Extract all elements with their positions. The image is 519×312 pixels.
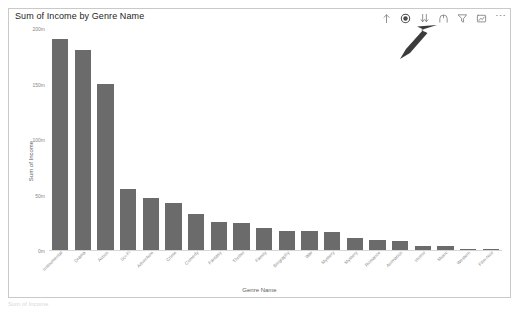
bar-slot xyxy=(162,29,185,250)
x-label-slot: Crime xyxy=(162,249,185,271)
bar-slot xyxy=(434,29,457,250)
drill-down-mode-icon[interactable] xyxy=(400,12,412,24)
x-axis-tick-label[interactable]: War xyxy=(304,250,313,259)
bar-slot xyxy=(185,29,208,250)
x-axis-tick-label[interactable]: Horror xyxy=(413,250,426,263)
visual-header: Sum of Income by Genre Name xyxy=(9,9,510,25)
x-axis-tick-label[interactable]: Mystery xyxy=(321,250,336,265)
bar-slot xyxy=(298,29,321,250)
x-axis-tick-label[interactable]: Biography xyxy=(272,250,290,268)
bar[interactable] xyxy=(75,50,91,250)
y-axis-tick-label: 100m xyxy=(32,137,45,143)
x-axis-tick-label[interactable]: Drama xyxy=(73,250,86,263)
bar[interactable] xyxy=(120,189,136,250)
y-axis-tick-label: 200m xyxy=(32,26,45,32)
bar[interactable] xyxy=(143,198,159,250)
bar-slot xyxy=(94,29,117,250)
y-axis: 200m150m100m50m0m xyxy=(21,29,47,251)
bar-slot xyxy=(457,29,480,250)
x-axis-tick-label[interactable]: Action xyxy=(96,250,109,263)
chart-canvas xyxy=(49,29,502,251)
bar-slot xyxy=(412,29,435,250)
x-axis-tick-label[interactable]: Mystery xyxy=(343,250,358,265)
x-label-slot: Mystery xyxy=(321,249,344,271)
x-label-slot: Action xyxy=(94,249,117,271)
x-axis-tick-label[interactable]: Sci-Fi xyxy=(120,250,132,262)
bar[interactable] xyxy=(211,222,227,250)
expand-next-level-icon[interactable] xyxy=(419,12,431,24)
x-axis-tick-label[interactable]: Film-Noir xyxy=(477,250,494,267)
filter-icon[interactable] xyxy=(457,12,469,24)
x-axis-tick-label[interactable]: Animation xyxy=(385,250,403,268)
x-label-slot: Fantasy xyxy=(208,249,231,271)
x-label-slot: Music xyxy=(434,249,457,271)
x-axis-tick-label[interactable]: Comedy xyxy=(184,250,200,266)
bar[interactable] xyxy=(97,84,113,250)
bar[interactable] xyxy=(165,203,181,251)
bar[interactable] xyxy=(52,39,68,250)
x-label-slot: Animation xyxy=(389,249,412,271)
x-axis-labels: InstrumentalDramaActionSci-FiAdventureCr… xyxy=(49,249,502,271)
bar[interactable] xyxy=(233,223,249,250)
x-axis-tick-label[interactable]: Instrumental xyxy=(42,250,64,272)
x-label-slot: Western xyxy=(457,249,480,271)
bar-slot xyxy=(389,29,412,250)
x-label-slot: Family xyxy=(253,249,276,271)
bar-slot xyxy=(366,29,389,250)
visual-header-toolbar[interactable]: ⋯ xyxy=(381,11,507,25)
x-label-slot: Instrumental xyxy=(49,249,72,271)
expand-all-icon[interactable] xyxy=(438,12,450,24)
bar-slot xyxy=(321,29,344,250)
bar[interactable] xyxy=(188,214,204,250)
bar-slot xyxy=(117,29,140,250)
x-axis-tick-label[interactable]: Crime xyxy=(165,250,177,262)
x-label-slot: Biography xyxy=(276,249,299,271)
x-label-slot: Romance xyxy=(366,249,389,271)
bar-slot xyxy=(479,29,502,250)
x-axis-tick-label[interactable]: Romance xyxy=(363,250,381,268)
x-label-slot: War xyxy=(298,249,321,271)
bar-slot xyxy=(49,29,72,250)
power-bi-visual-container: Sum of Income by Genre Name xyxy=(8,8,511,298)
more-options-icon[interactable]: ⋯ xyxy=(495,14,507,23)
x-label-slot: Horror xyxy=(412,249,435,271)
bar-slot xyxy=(230,29,253,250)
x-axis-tick-label[interactable]: Music xyxy=(437,250,449,262)
bar[interactable] xyxy=(324,232,340,250)
bar-slot xyxy=(72,29,95,250)
x-axis-tick-label[interactable]: Family xyxy=(254,250,267,263)
page-footnote: Sum of Income xyxy=(8,301,48,307)
bar-slot xyxy=(253,29,276,250)
x-axis-tick-label[interactable]: Western xyxy=(456,250,472,266)
focus-mode-icon[interactable] xyxy=(476,12,488,24)
x-label-slot: Film-Noir xyxy=(479,249,502,271)
x-label-slot: Drama xyxy=(72,249,95,271)
y-axis-tick-label: 150m xyxy=(32,82,45,88)
x-label-slot: Comedy xyxy=(185,249,208,271)
bar[interactable] xyxy=(256,228,272,250)
bar-slot xyxy=(344,29,367,250)
x-label-slot: Thriller xyxy=(230,249,253,271)
y-axis-tick-label: 50m xyxy=(35,193,45,199)
x-label-slot: Adventure xyxy=(140,249,163,271)
x-axis-tick-label[interactable]: Fantasy xyxy=(207,250,222,265)
x-label-slot: Sci-Fi xyxy=(117,249,140,271)
y-axis-tick-label: 0m xyxy=(38,248,45,254)
bar-slot xyxy=(208,29,231,250)
visual-title: Sum of Income by Genre Name xyxy=(15,11,144,21)
bar[interactable] xyxy=(279,231,295,250)
x-label-slot: Mystery xyxy=(344,249,367,271)
bar-slot xyxy=(276,29,299,250)
bar-slot xyxy=(140,29,163,250)
drill-up-icon[interactable] xyxy=(381,12,393,24)
bar[interactable] xyxy=(301,231,317,250)
bar-series xyxy=(49,29,502,250)
x-axis-tick-label[interactable]: Thriller xyxy=(231,250,245,264)
plot-area: Sum of Income 200m150m100m50m0m Instrume… xyxy=(9,25,510,297)
x-axis-title: Genre Name xyxy=(9,287,510,293)
